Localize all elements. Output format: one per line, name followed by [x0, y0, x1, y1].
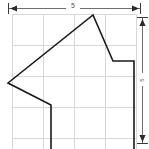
geometry-figure-svg: 5 5 — [0, 0, 149, 149]
figure-canvas: 5 5 — [0, 0, 149, 149]
top-dimension-label: 5 — [71, 2, 75, 9]
